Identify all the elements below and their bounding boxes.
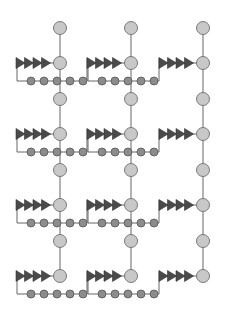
small-node bbox=[124, 219, 132, 227]
small-node bbox=[111, 219, 119, 227]
small-node bbox=[111, 77, 119, 85]
intermediate-node bbox=[197, 93, 210, 106]
triangle-node bbox=[159, 129, 168, 140]
triangle-node bbox=[25, 271, 34, 282]
small-node bbox=[79, 290, 87, 298]
small-node bbox=[79, 77, 87, 85]
small-node bbox=[40, 148, 48, 156]
small-node bbox=[53, 290, 61, 298]
triangle-node bbox=[113, 200, 122, 211]
small-node bbox=[98, 77, 106, 85]
intermediate-node bbox=[197, 235, 210, 248]
small-node bbox=[137, 77, 145, 85]
triangle-node bbox=[168, 200, 177, 211]
main-node bbox=[125, 57, 138, 70]
triangle-node bbox=[42, 200, 51, 211]
small-node bbox=[98, 219, 106, 227]
triangle-node bbox=[104, 200, 113, 211]
triangle-node bbox=[159, 58, 168, 69]
main-node bbox=[54, 57, 67, 70]
triangle-node bbox=[87, 58, 96, 69]
triangle-node bbox=[185, 58, 194, 69]
triangle-node bbox=[33, 200, 42, 211]
triangle-node bbox=[87, 129, 96, 140]
small-node bbox=[124, 290, 132, 298]
nodes-layer bbox=[16, 22, 210, 299]
small-node bbox=[53, 77, 61, 85]
main-node bbox=[125, 199, 138, 212]
triangle-node bbox=[87, 200, 96, 211]
main-node bbox=[197, 270, 210, 283]
small-node bbox=[111, 290, 119, 298]
triangle-node bbox=[96, 271, 105, 282]
triangle-node bbox=[16, 58, 25, 69]
triangle-node bbox=[113, 129, 122, 140]
top-node bbox=[197, 22, 210, 35]
triangle-node bbox=[104, 58, 113, 69]
small-node bbox=[27, 219, 35, 227]
small-node bbox=[150, 148, 158, 156]
triangle-node bbox=[185, 271, 194, 282]
triangle-node bbox=[113, 58, 122, 69]
small-node bbox=[137, 219, 145, 227]
triangle-node bbox=[42, 271, 51, 282]
triangle-node bbox=[42, 129, 51, 140]
small-node bbox=[111, 148, 119, 156]
intermediate-node bbox=[125, 93, 138, 106]
lattice-diagram bbox=[0, 0, 228, 314]
small-node bbox=[66, 148, 74, 156]
main-node bbox=[197, 128, 210, 141]
triangle-node bbox=[176, 271, 185, 282]
intermediate-node bbox=[54, 164, 67, 177]
triangle-node bbox=[25, 58, 34, 69]
triangle-node bbox=[104, 271, 113, 282]
main-node bbox=[125, 128, 138, 141]
triangle-node bbox=[185, 200, 194, 211]
main-node bbox=[54, 270, 67, 283]
top-node bbox=[125, 22, 138, 35]
small-node bbox=[53, 219, 61, 227]
triangle-node bbox=[96, 200, 105, 211]
small-node bbox=[27, 290, 35, 298]
triangle-node bbox=[33, 58, 42, 69]
small-node bbox=[66, 219, 74, 227]
triangle-node bbox=[96, 129, 105, 140]
small-node bbox=[124, 77, 132, 85]
main-node bbox=[125, 270, 138, 283]
small-node bbox=[137, 148, 145, 156]
triangle-node bbox=[168, 271, 177, 282]
triangle-node bbox=[33, 271, 42, 282]
small-node bbox=[150, 290, 158, 298]
main-node bbox=[197, 199, 210, 212]
small-node bbox=[66, 290, 74, 298]
intermediate-node bbox=[197, 164, 210, 177]
small-node bbox=[40, 219, 48, 227]
small-node bbox=[66, 77, 74, 85]
triangle-node bbox=[159, 271, 168, 282]
triangle-node bbox=[168, 58, 177, 69]
small-node bbox=[150, 77, 158, 85]
small-node bbox=[98, 148, 106, 156]
triangle-node bbox=[104, 129, 113, 140]
triangle-node bbox=[16, 129, 25, 140]
small-node bbox=[137, 290, 145, 298]
triangle-node bbox=[113, 271, 122, 282]
triangle-node bbox=[96, 58, 105, 69]
triangle-node bbox=[168, 129, 177, 140]
small-node bbox=[150, 219, 158, 227]
small-node bbox=[79, 219, 87, 227]
triangle-node bbox=[176, 58, 185, 69]
small-node bbox=[98, 290, 106, 298]
small-node bbox=[53, 148, 61, 156]
triangle-node bbox=[176, 129, 185, 140]
triangle-node bbox=[159, 200, 168, 211]
small-node bbox=[124, 148, 132, 156]
small-node bbox=[27, 148, 35, 156]
main-node bbox=[54, 199, 67, 212]
intermediate-node bbox=[125, 164, 138, 177]
triangle-node bbox=[25, 129, 34, 140]
triangle-node bbox=[25, 200, 34, 211]
triangle-node bbox=[16, 200, 25, 211]
intermediate-node bbox=[125, 235, 138, 248]
triangle-node bbox=[33, 129, 42, 140]
